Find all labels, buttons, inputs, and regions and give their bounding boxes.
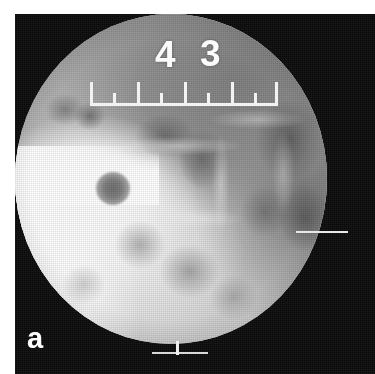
bottom-edge-marker-tick <box>176 341 179 355</box>
ruler-tick-minor-1 <box>113 93 116 106</box>
panel-label: a <box>27 324 43 353</box>
ruler-tick-major-4 <box>184 82 187 106</box>
ruler-tick-minor-5 <box>207 93 210 106</box>
ruler-numeral-3: 3 <box>200 35 221 72</box>
scale-ruler <box>90 80 278 106</box>
right-edge-marker-line <box>296 231 348 233</box>
ruler-numeral-4: 4 <box>155 36 176 73</box>
ruler-tick-major-6 <box>231 82 234 106</box>
ruler-tick-major-0 <box>90 82 93 106</box>
ruler-tick-minor-3 <box>160 93 163 106</box>
ruler-tick-minor-7 <box>254 93 257 106</box>
figure-root: 43 a <box>0 0 375 374</box>
ruler-tick-major-2 <box>137 82 140 106</box>
ruler-tick-major-8 <box>275 82 278 106</box>
bottom-edge-marker-bar <box>152 352 208 354</box>
